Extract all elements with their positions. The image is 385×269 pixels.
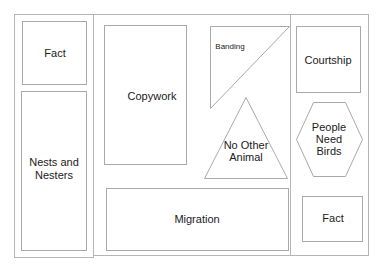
migration-label: Migration <box>174 213 219 225</box>
nests-label-line-2: Nesters <box>35 169 73 181</box>
courtship-label: Courtship <box>304 54 351 66</box>
people-need-birds-hexagon[interactable]: People Need Birds <box>297 103 363 177</box>
banding-triangle[interactable]: Banding <box>211 27 290 109</box>
no-other-animal-line-1: No Other <box>224 139 269 151</box>
copywork-box[interactable]: Copywork <box>105 26 187 165</box>
migration-box[interactable]: Migration <box>107 189 289 251</box>
no-other-animal-triangle[interactable]: No Other Animal <box>205 98 288 179</box>
people-need-birds-line-2: Need <box>316 133 342 145</box>
fact-right-box[interactable]: Fact <box>303 197 363 242</box>
lapbook-diagram: Fact Nests and Nesters Copywork Banding … <box>0 0 385 269</box>
banding-label: Banding <box>215 42 244 51</box>
people-need-birds-line-3: Birds <box>316 145 342 157</box>
copywork-label: Copywork <box>128 90 177 102</box>
courtship-box[interactable]: Courtship <box>297 27 361 93</box>
fact-left-label: Fact <box>44 47 65 59</box>
fact-left-box[interactable]: Fact <box>23 22 87 85</box>
people-need-birds-line-1: People <box>312 121 346 133</box>
nests-and-nesters-box[interactable]: Nests and Nesters <box>22 92 87 251</box>
nests-label-line-1: Nests and <box>29 156 79 168</box>
fact-right-label: Fact <box>322 212 343 224</box>
no-other-animal-line-2: Animal <box>229 151 263 163</box>
